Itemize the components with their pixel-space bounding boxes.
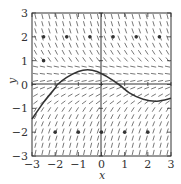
x-tick-label: −2 <box>47 158 63 171</box>
slope-segment <box>54 80 59 81</box>
slope-segment <box>96 101 100 104</box>
slope-segment <box>56 28 58 33</box>
y-tick-label: −3 <box>12 150 28 163</box>
slope-segment <box>70 150 71 155</box>
slope-segment <box>153 136 154 141</box>
slope-segment <box>55 121 57 126</box>
slope-segment <box>40 73 45 74</box>
slope-segment <box>49 143 50 148</box>
slope-segment <box>77 14 78 19</box>
slope-segment <box>76 43 78 48</box>
slope-segment <box>62 107 65 111</box>
slope-segment <box>153 129 155 134</box>
slope-segment <box>110 101 114 104</box>
slope-segment <box>132 43 134 48</box>
slope-segment <box>63 143 64 148</box>
slope-segment <box>83 28 85 33</box>
slope-segment <box>131 50 134 54</box>
slope-segment <box>104 129 106 134</box>
slope-segment <box>159 107 162 111</box>
slope-segment <box>125 36 127 41</box>
slope-segment <box>69 36 71 41</box>
slope-segment <box>49 129 51 134</box>
slope-segment <box>139 14 140 19</box>
slope-segment <box>132 150 133 155</box>
slope-segment <box>33 80 38 81</box>
slope-segment <box>160 28 162 33</box>
slope-segment <box>144 66 149 67</box>
slope-segment <box>124 94 129 97</box>
slope-segment <box>41 43 43 48</box>
slope-segment <box>118 21 119 26</box>
slope-segment <box>125 121 127 126</box>
slope-segment <box>76 21 77 26</box>
slope-segment <box>55 36 57 41</box>
slope-segment <box>104 36 106 41</box>
slope-segment <box>47 73 52 74</box>
slope-segment <box>125 136 126 141</box>
slope-segment <box>33 73 38 74</box>
slope-segment <box>89 87 94 89</box>
slope-segment <box>40 80 45 81</box>
slope-segment <box>82 94 87 97</box>
y-tick-label: 3 <box>21 7 28 20</box>
slope-segment <box>33 101 37 104</box>
slope-segment <box>62 36 64 41</box>
slope-segment <box>145 50 148 54</box>
slope-segment <box>132 114 134 119</box>
point-marker <box>134 35 138 39</box>
slope-segment <box>63 28 65 33</box>
slope-segment <box>167 36 169 41</box>
slope-segment <box>166 43 168 48</box>
x-axis-label: x <box>99 169 106 182</box>
slope-segment <box>125 21 126 26</box>
slope-segment <box>139 136 140 141</box>
slope-segment <box>62 121 64 126</box>
slope-segment <box>48 36 50 41</box>
slope-segment <box>97 129 99 134</box>
slope-segment <box>146 150 147 155</box>
slope-segment <box>90 136 91 141</box>
slope-segment <box>56 150 57 155</box>
slope-segment <box>159 50 162 54</box>
slope-segment <box>82 73 87 74</box>
point-marker <box>123 130 127 134</box>
slope-segment <box>165 94 170 97</box>
slope-segment <box>104 21 105 26</box>
slope-segment <box>82 66 87 67</box>
slope-segment <box>146 21 147 26</box>
slope-segment <box>75 80 80 81</box>
slope-segment <box>152 43 154 48</box>
slope-segment <box>97 28 99 33</box>
slope-segment <box>68 94 73 97</box>
slope-segment <box>123 73 128 74</box>
slope-segment <box>117 101 121 104</box>
slope-segment <box>132 28 134 33</box>
slope-segment <box>97 50 100 55</box>
slope-segment <box>151 80 156 81</box>
slope-segment <box>139 121 141 126</box>
slope-segment <box>62 43 64 48</box>
point-marker <box>77 130 81 134</box>
slope-segment <box>132 129 134 134</box>
slope-segment <box>54 101 58 104</box>
slope-segment <box>111 121 113 126</box>
slope-segment <box>41 121 43 126</box>
slope-segment <box>84 14 85 19</box>
slope-segment <box>153 28 155 33</box>
slope-segment <box>137 87 142 89</box>
slope-segment <box>77 150 78 155</box>
slope-segment <box>90 114 92 119</box>
slope-segment <box>82 80 87 81</box>
slope-segment <box>118 114 120 119</box>
slope-segment <box>118 43 120 48</box>
slope-segment <box>35 14 36 19</box>
slope-segment <box>56 136 57 141</box>
y-tick-label: 0 <box>21 79 28 92</box>
slope-segment <box>34 43 36 48</box>
slope-segment <box>165 73 170 74</box>
slope-segment <box>69 28 71 33</box>
slope-segment <box>139 43 141 48</box>
slope-segment <box>104 114 106 119</box>
y-tick-label: −1 <box>12 102 28 115</box>
